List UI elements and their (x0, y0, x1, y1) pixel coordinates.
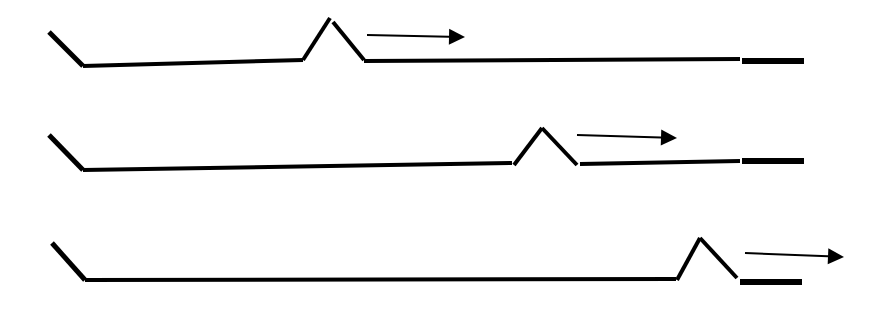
arrowhead-icon (449, 29, 465, 45)
arrow-shaft (577, 135, 661, 138)
bump-rising-edge (677, 238, 700, 280)
baseline-left (85, 279, 676, 280)
start-slope (52, 243, 85, 280)
baseline-left (83, 60, 303, 66)
bump-rising-edge (303, 18, 330, 60)
bump-propagation-diagram (0, 0, 885, 309)
arrowhead-icon (661, 130, 677, 146)
start-slope (49, 135, 83, 170)
diagram-row-2 (49, 128, 804, 170)
diagram-rows (49, 18, 844, 282)
arrow-shaft (745, 253, 828, 256)
arrowhead-icon (828, 248, 844, 264)
diagram-row-1 (49, 18, 804, 66)
bump-rising-edge (514, 128, 542, 165)
baseline-right (364, 59, 740, 61)
arrow-shaft (367, 35, 449, 37)
baseline-right (580, 161, 740, 164)
bump-falling-edge (700, 238, 737, 278)
bump-falling-edge (333, 22, 364, 60)
start-slope (49, 32, 83, 66)
baseline-left (83, 163, 512, 170)
diagram-row-3 (52, 238, 844, 282)
bump-falling-edge (542, 128, 577, 165)
diagram-canvas (0, 0, 885, 309)
